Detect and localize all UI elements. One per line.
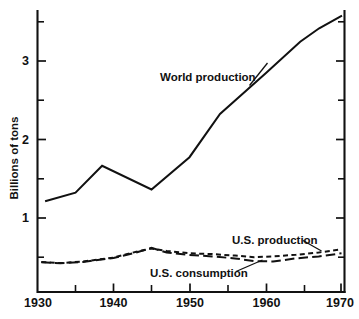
x-tick-label-1930: 1930: [24, 296, 52, 310]
chart-figure: Billions of tons 1 2 3 1930 1940 1950 19…: [0, 0, 359, 319]
y-tick-label-2: 2: [13, 133, 29, 147]
x-axis-ticks: [76, 284, 342, 293]
y-tick-label-3: 3: [13, 54, 29, 68]
y-axis-title: Billions of tons: [8, 110, 20, 206]
x-tick-label-1970: 1970: [326, 296, 354, 310]
y-axis-major-ticks: [38, 61, 47, 218]
series-label-us-production-word2: production: [258, 234, 318, 246]
x-tick-label-1940: 1940: [100, 296, 128, 310]
series-label-us-production-word1: U.S.: [232, 234, 254, 246]
series-label-us-consumption-word2: consumption: [176, 267, 248, 279]
series-line-world-production: [45, 16, 342, 202]
series-label-world-production-word1: World: [160, 71, 192, 83]
x-tick-label-1950: 1950: [176, 296, 204, 310]
axis-spine-left-bottom: [38, 11, 345, 292]
series-line-us-consumption: [41, 248, 341, 263]
series-label-world-production: Worldproduction: [160, 71, 256, 83]
series-label-world-production-word2: production: [196, 71, 256, 83]
series-label-us-consumption: U.S.consumption: [150, 267, 248, 279]
series-label-us-consumption-word1: U.S.: [150, 267, 172, 279]
series-label-us-production: U.S.production: [232, 234, 318, 246]
x-tick-label-1960: 1960: [253, 296, 281, 310]
y-tick-label-1: 1: [13, 211, 29, 225]
right-axis-ticks: [336, 22, 345, 257]
